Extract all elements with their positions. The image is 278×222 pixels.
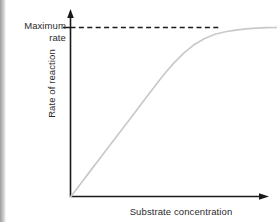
- y-axis-label: Rate of reaction: [46, 24, 57, 144]
- maximum-rate-label-line2: rate: [8, 32, 66, 44]
- maximum-rate-label-line1: Maximum: [8, 20, 66, 32]
- x-axis-arrowhead: [259, 193, 269, 200]
- reaction-rate-curve: [71, 28, 278, 198]
- y-axis: [67, 9, 74, 197]
- y-axis-arrowhead: [67, 9, 74, 18]
- maximum-rate-annotation: Maximum rate: [8, 20, 66, 44]
- enzyme-kinetics-figure: Maximum rate Rate of reaction Substrate …: [0, 0, 277, 222]
- x-axis-label: Substrate concentration: [96, 206, 266, 217]
- x-axis: [71, 193, 270, 200]
